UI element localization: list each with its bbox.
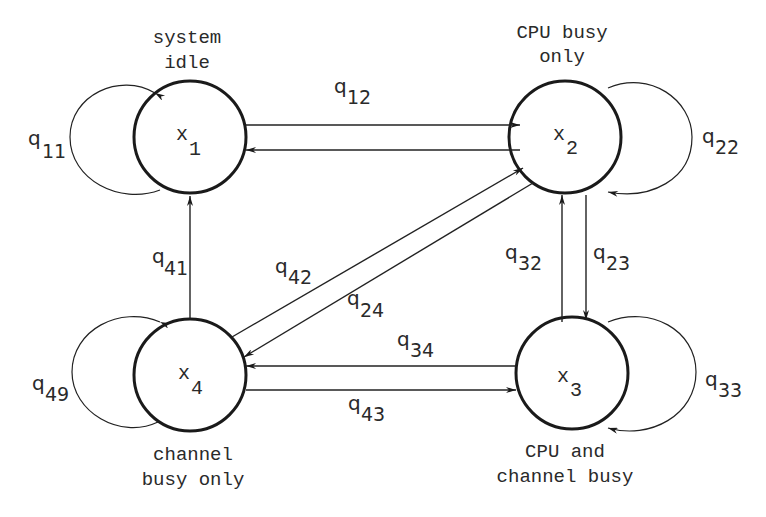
- svg-text:34: 34: [410, 339, 434, 361]
- svg-text:24: 24: [360, 299, 384, 321]
- svg-text:q: q: [347, 286, 360, 310]
- rate-q11: q 11: [28, 126, 66, 162]
- state-x3-circle: [516, 317, 628, 429]
- svg-text:q: q: [334, 74, 347, 98]
- rate-q49: q 49: [32, 371, 69, 405]
- state-x3-label: x 3: [557, 365, 582, 402]
- svg-text:22: 22: [715, 136, 739, 158]
- svg-text:23: 23: [606, 252, 630, 274]
- rate-q42: q 42: [275, 254, 312, 288]
- svg-text:1: 1: [189, 138, 201, 161]
- state-x4-caption-line1: channel: [153, 444, 233, 466]
- state-x3-caption-line1: CPU and: [525, 441, 605, 463]
- state-x2-label: x 2: [553, 123, 578, 160]
- svg-text:q: q: [702, 124, 715, 148]
- self-loop-x3: [608, 317, 696, 431]
- svg-text:4: 4: [191, 377, 203, 400]
- rate-q12: q 12: [334, 74, 371, 108]
- svg-text:x: x: [176, 123, 188, 146]
- state-x1-label: x 1: [176, 123, 201, 161]
- svg-text:q: q: [275, 254, 288, 278]
- svg-text:42: 42: [288, 266, 312, 288]
- state-x2-caption-line1: CPU busy: [516, 22, 607, 44]
- svg-text:11: 11: [42, 140, 66, 162]
- state-x3-caption-line2: channel busy: [497, 466, 634, 488]
- svg-text:q: q: [397, 327, 410, 351]
- rate-q32: q 32: [505, 240, 542, 274]
- svg-text:q: q: [505, 240, 518, 264]
- rate-q33: q 33: [705, 367, 742, 401]
- svg-text:q: q: [32, 371, 45, 395]
- svg-text:x: x: [557, 365, 569, 388]
- rate-q34: q 34: [397, 327, 434, 361]
- svg-text:43: 43: [361, 403, 385, 425]
- svg-text:x: x: [553, 123, 565, 146]
- svg-text:41: 41: [164, 257, 188, 279]
- svg-text:q: q: [705, 367, 718, 391]
- svg-text:q: q: [593, 240, 606, 264]
- svg-text:12: 12: [347, 86, 371, 108]
- state-x1-caption-line2: idle: [164, 52, 210, 74]
- rate-q24: q 24: [347, 286, 384, 321]
- svg-text:q: q: [152, 244, 165, 268]
- svg-text:3: 3: [570, 379, 582, 402]
- svg-text:q: q: [348, 391, 361, 415]
- svg-text:49: 49: [45, 383, 69, 405]
- rate-q22: q 22: [702, 124, 739, 158]
- svg-text:32: 32: [518, 252, 542, 274]
- state-x1-circle: [134, 81, 246, 193]
- rate-q23: q 23: [593, 240, 630, 274]
- state-x4-label: x 4: [178, 362, 203, 400]
- state-x1-caption-line1: system: [153, 27, 221, 49]
- svg-text:q: q: [28, 126, 41, 150]
- svg-text:x: x: [178, 362, 190, 385]
- rate-q41: q 41: [152, 244, 188, 279]
- svg-text:33: 33: [718, 379, 742, 401]
- state-x4-caption-line2: busy only: [142, 469, 245, 491]
- state-transition-diagram: system idle CPU busy only channel busy o…: [0, 0, 766, 517]
- rate-q43: q 43: [348, 391, 385, 425]
- state-x2-caption-line2: only: [539, 46, 585, 68]
- svg-text:2: 2: [566, 137, 578, 160]
